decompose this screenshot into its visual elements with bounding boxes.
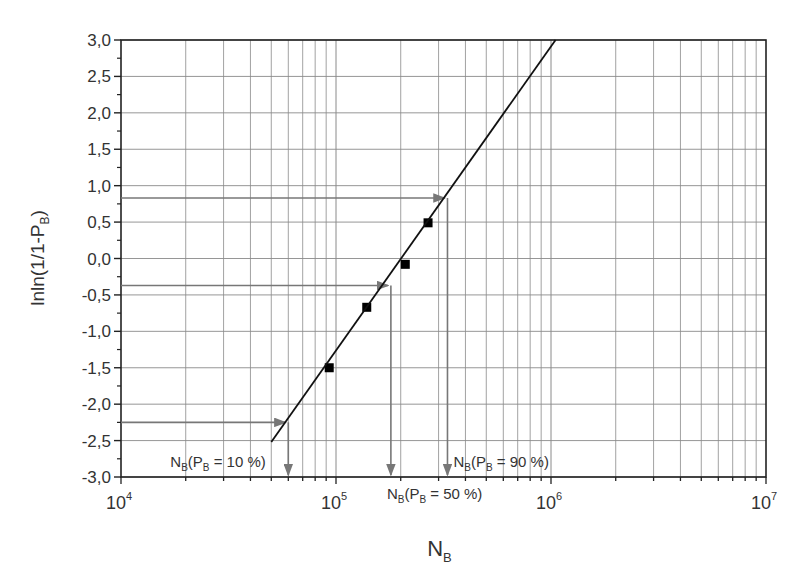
- x-axis-title: NB: [427, 536, 452, 565]
- axis-labels: 3,02,52,01,51,00,50,0-0,5-1,0-1,5-2,0-2,…: [27, 31, 777, 565]
- y-tick-label: 2,5: [87, 67, 111, 86]
- grid-lines: [121, 40, 766, 477]
- y-tick-label: 0,5: [87, 213, 111, 232]
- y-tick-label: 1,5: [87, 140, 111, 159]
- percentile-arrows: [121, 198, 447, 475]
- x-tick-label: 104: [106, 490, 132, 513]
- y-tick-label: 1,0: [87, 177, 111, 196]
- x-tick-label: 106: [536, 490, 562, 513]
- data-point-square: [401, 260, 410, 269]
- y-tick-label: -2,5: [82, 432, 111, 451]
- percentile-label: NB(PB = 10 %): [170, 453, 265, 473]
- y-tick-label: 2,0: [87, 104, 111, 123]
- y-tick-label: -1,0: [82, 322, 111, 341]
- x-tick-label: 107: [751, 490, 777, 513]
- y-axis-title: lnln(1/1-PB): [27, 210, 52, 306]
- y-tick-label: -3,0: [82, 468, 111, 487]
- percentile-label: NB(PB = 50 %): [387, 485, 482, 505]
- y-tick-label: -1,5: [82, 359, 111, 378]
- y-tick-label: 3,0: [87, 31, 111, 50]
- y-tick-label: 0,0: [87, 250, 111, 269]
- percentile-label: NB(PB = 90 %): [453, 453, 548, 473]
- weibull-chart: 3,02,52,01,51,00,50,0-0,5-1,0-1,5-2,0-2,…: [0, 0, 811, 583]
- x-tick-label: 105: [321, 490, 347, 513]
- fit-line: [271, 40, 555, 442]
- y-tick-label: -2,0: [82, 395, 111, 414]
- axes: [114, 40, 766, 484]
- data-series: [271, 40, 555, 442]
- y-tick-label: -0,5: [82, 286, 111, 305]
